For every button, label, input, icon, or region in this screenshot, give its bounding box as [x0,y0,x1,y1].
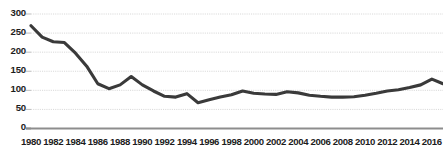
y-axis-tick-label: 300 [0,8,26,18]
x-axis-tick-label: 2012 [377,136,397,148]
x-axis-tick-label: 1986 [88,136,108,148]
data-series-group [31,26,443,103]
data-line-value [31,26,443,103]
x-axis-tick-label: 1988 [110,136,130,148]
x-axis-tick-label: 1998 [221,136,241,148]
x-axis-tick-labels: 1980198219841986198819901992199419961998… [0,136,443,150]
x-axis-tick-label: 1984 [66,136,86,148]
y-axis-tick-label: 250 [0,27,26,37]
gridlines-group [31,14,443,109]
y-axis-tick-label: 150 [0,65,26,75]
y-axis-tick-label: 200 [0,46,26,56]
y-axis-tick-label: 0 [0,122,26,132]
x-axis-tick-label: 2016 [422,136,442,148]
x-axis-tick-label: 2014 [400,136,420,148]
chart-container: · · · · · 050100150200250300 19801982198… [0,0,443,151]
x-axis-tick-label: 1980 [21,136,41,148]
x-axis-tick-label: 2000 [244,136,264,148]
x-axis-tick-label: 2008 [333,136,353,148]
y-axis-tick-label: 100 [0,84,26,94]
y-axis-tick-label: 50 [0,103,26,113]
x-axis-tick-label: 2006 [311,136,331,148]
x-axis-tick-label: 1994 [177,136,197,148]
x-axis-tick-label: 1992 [155,136,175,148]
x-axis-tick-label: 2004 [288,136,308,148]
x-axis-tick-label: 1990 [132,136,152,148]
x-axis-tick-label: 1996 [199,136,219,148]
x-axis-tick-label: 2002 [266,136,286,148]
chart-plot-area [0,0,443,151]
x-axis-tick-label: 2010 [355,136,375,148]
x-axis-tick-label: 1982 [43,136,63,148]
